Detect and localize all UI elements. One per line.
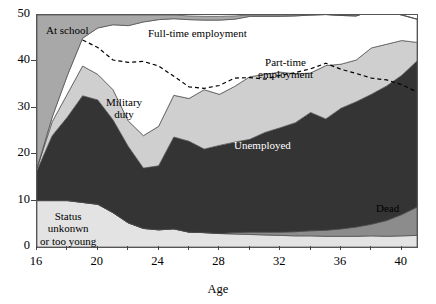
x-tick-label: 20: [77, 254, 117, 269]
y-tick-label: 10: [0, 192, 30, 207]
y-tick-label: 40: [0, 52, 30, 67]
x-tick-mark: [97, 246, 98, 250]
y-tick-mark: [31, 200, 36, 201]
x-tick-mark: [279, 246, 280, 250]
y-tick-label: 50: [0, 6, 30, 21]
y-tick-label: 0: [0, 238, 30, 253]
x-tick-mark: [158, 246, 159, 250]
plot-area: [36, 14, 418, 248]
x-tick-label: 40: [381, 254, 421, 269]
y-tick-label: 30: [0, 99, 30, 114]
x-tick-label: 24: [138, 254, 178, 269]
x-tick-label: 16: [16, 254, 56, 269]
x-tick-mark: [127, 246, 128, 250]
x-tick-label: 28: [198, 254, 238, 269]
y-tick-mark: [31, 60, 36, 61]
x-tick-mark: [66, 246, 67, 250]
x-tick-mark: [249, 246, 250, 250]
x-tick-mark: [401, 246, 402, 250]
x-tick-label: 32: [259, 254, 299, 269]
x-tick-mark: [310, 246, 311, 250]
x-tick-mark: [36, 246, 37, 250]
y-tick-label: 20: [0, 145, 30, 160]
x-tick-mark: [370, 246, 371, 250]
y-tick-mark: [31, 153, 36, 154]
stacked-area-series-group: [37, 15, 417, 247]
x-axis-title: Age: [178, 282, 258, 297]
x-tick-mark: [218, 246, 219, 250]
chart-figure: 01020304050 16202428323640 At schoolFull…: [0, 0, 436, 304]
x-tick-label: 36: [320, 254, 360, 269]
x-tick-mark: [340, 246, 341, 250]
y-tick-mark: [31, 107, 36, 108]
x-tick-mark: [188, 246, 189, 250]
